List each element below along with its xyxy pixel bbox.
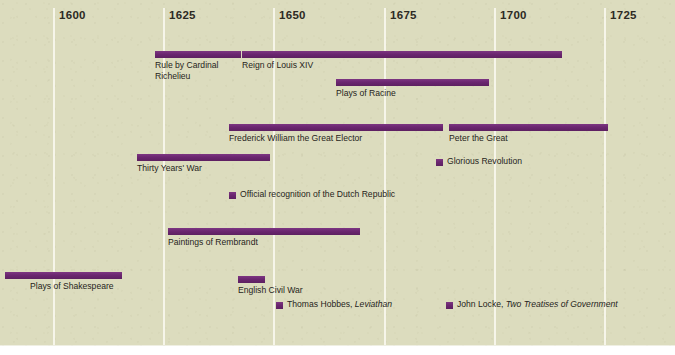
- event-label: Thirty Years' War: [137, 163, 202, 174]
- event-bar: [336, 79, 489, 86]
- event-bar: [137, 154, 270, 161]
- event-label: John Locke, Two Treatises of Government: [457, 299, 618, 310]
- axis-tick-label-1600: 1600: [59, 9, 86, 21]
- event-label: Thomas Hobbes, Leviathan: [287, 299, 392, 310]
- event-label: Rule by Cardinal Richelieu: [155, 60, 225, 82]
- event-marker: [436, 159, 443, 166]
- gridline-1725: [604, 8, 606, 345]
- event-label: Official recognition of the Dutch Republ…: [240, 189, 395, 200]
- event-label-text: Thomas Hobbes,: [287, 299, 355, 309]
- event-label: Peter the Great: [449, 133, 508, 144]
- timeline-figure: 160016251650167517001725 Rule by Cardina…: [0, 0, 675, 355]
- gridline-1675: [384, 8, 386, 345]
- event-label: Plays of Racine: [336, 88, 396, 99]
- axis-tick-label-1675: 1675: [390, 9, 417, 21]
- event-label: Paintings of Rembrandt: [168, 237, 258, 248]
- bottom-edge: [0, 346, 675, 355]
- event-bar: [155, 51, 241, 58]
- event-label: Reign of Louis XIV: [242, 60, 313, 71]
- gridline-1600: [53, 8, 55, 345]
- axis-tick-label-1650: 1650: [279, 9, 306, 21]
- event-marker: [229, 192, 236, 199]
- axis-tick-label-1725: 1725: [610, 9, 637, 21]
- event-marker: [446, 302, 453, 309]
- event-label-title: Two Treatises of Government: [506, 299, 618, 309]
- event-bar: [5, 272, 122, 279]
- event-label: Plays of Shakespeare: [30, 281, 114, 292]
- event-label: Glorious Revolution: [447, 156, 522, 167]
- event-bar: [168, 228, 360, 235]
- event-bar: [242, 51, 562, 58]
- event-marker: [276, 302, 283, 309]
- event-label: Frederick William the Great Elector: [229, 133, 362, 144]
- event-bar: [449, 124, 608, 131]
- axis-tick-label-1625: 1625: [169, 9, 196, 21]
- event-label-title: Leviathan: [355, 299, 392, 309]
- event-label: English Civil War: [238, 285, 303, 296]
- axis-tick-label-1700: 1700: [500, 9, 527, 21]
- event-bar: [238, 276, 265, 283]
- event-label-text: John Locke,: [457, 299, 506, 309]
- gridline-1625: [163, 8, 165, 345]
- event-bar: [229, 124, 443, 131]
- gridline-1700: [494, 8, 496, 345]
